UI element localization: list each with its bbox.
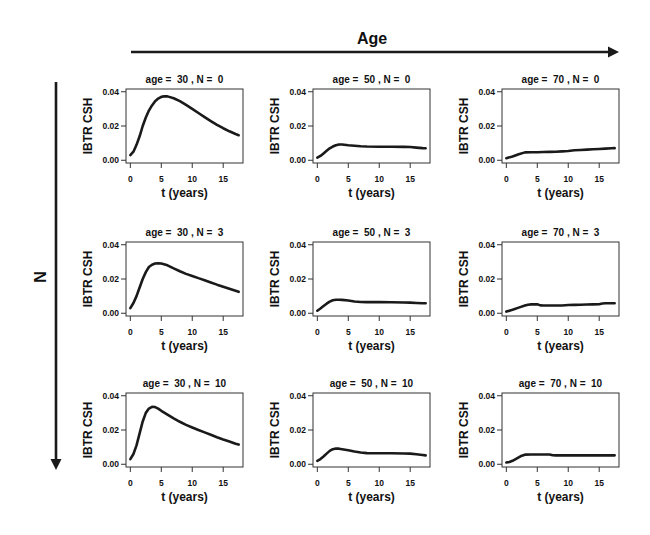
hazard-curve-line <box>506 455 614 463</box>
panel-age-30-n-10: age = 30 , N = 10 0.000.020.04 051015 t … <box>81 378 243 505</box>
x-tick-label: 15 <box>405 478 415 488</box>
hazard-curve-line <box>506 148 614 158</box>
x-tick-label: 10 <box>375 327 385 337</box>
hazard-curve-line <box>130 96 238 155</box>
hazard-curve-line <box>317 145 425 158</box>
x-axis: 051015 <box>128 467 228 488</box>
y-tick-label: 0.00 <box>102 308 119 318</box>
plot-frame <box>313 89 430 163</box>
x-axis-label: t (years) <box>537 339 584 353</box>
x-tick-label: 10 <box>564 478 574 488</box>
panel-age-70-n-0: age = 70 , N = 0 0.000.020.04 051015 t (… <box>457 74 619 201</box>
y-axis-label: IBTR CSH <box>268 98 282 155</box>
y-tick-label: 0.02 <box>289 425 306 435</box>
panel-title: age = 30 , N = 10 <box>143 378 227 389</box>
y-axis-label: IBTR CSH <box>81 251 95 308</box>
x-tick-label: 5 <box>535 478 540 488</box>
y-tick-label: 0.02 <box>102 425 119 435</box>
x-tick-label: 15 <box>218 174 228 184</box>
plot-frame <box>313 242 430 316</box>
y-tick-label: 0.02 <box>102 121 119 131</box>
panel-title: age = 50 , N = 10 <box>330 378 414 389</box>
x-tick-label: 5 <box>535 327 540 337</box>
x-axis: 051015 <box>315 467 415 488</box>
panel-title: age = 70 , N = 10 <box>519 378 603 389</box>
arrow-right-icon <box>608 47 619 58</box>
y-axis-label: IBTR CSH <box>268 402 282 459</box>
panel-age-30-n-3: age = 30 , N = 3 0.000.020.04 051015 t (… <box>81 227 243 354</box>
panel-age-50-n-3: age = 50 , N = 3 0.000.020.04 051015 t (… <box>268 227 430 354</box>
x-tick-label: 0 <box>128 478 133 488</box>
y-axis: 0.000.020.04 <box>289 391 313 470</box>
x-tick-label: 5 <box>346 327 351 337</box>
figure-canvas: Age N age = 30 , N = 0 0.000.020.04 0510… <box>0 0 650 535</box>
y-axis-label: IBTR CSH <box>81 402 95 459</box>
x-axis-label: t (years) <box>348 339 395 353</box>
y-tick-label: 0.00 <box>478 459 495 469</box>
y-tick-label: 0.00 <box>289 308 306 318</box>
arrow-down-icon <box>51 459 62 470</box>
x-tick-label: 0 <box>504 478 509 488</box>
hazard-curve-line <box>130 263 238 308</box>
y-axis-label: IBTR CSH <box>268 251 282 308</box>
x-tick-label: 15 <box>594 327 604 337</box>
y-tick-label: 0.04 <box>478 87 495 97</box>
panel-title: age = 50 , N = 0 <box>333 74 411 85</box>
x-axis-label: t (years) <box>537 490 584 504</box>
hazard-curve-line <box>506 303 614 311</box>
x-tick-label: 0 <box>504 174 509 184</box>
y-tick-label: 0.02 <box>102 274 119 284</box>
panel-title: age = 30 , N = 0 <box>146 74 224 85</box>
hazard-curve-line <box>317 300 425 311</box>
x-axis: 051015 <box>504 163 604 184</box>
x-axis: 051015 <box>128 316 228 337</box>
x-tick-label: 0 <box>315 478 320 488</box>
x-tick-label: 0 <box>315 327 320 337</box>
panel-age-50-n-10: age = 50 , N = 10 0.000.020.04 051015 t … <box>268 378 430 505</box>
y-tick-label: 0.00 <box>478 308 495 318</box>
x-tick-label: 5 <box>535 174 540 184</box>
n-axis-arrow: N <box>32 82 62 470</box>
y-tick-label: 0.00 <box>102 459 119 469</box>
x-tick-label: 5 <box>159 174 164 184</box>
x-tick-label: 0 <box>315 174 320 184</box>
age-axis-arrow: Age <box>131 30 619 58</box>
x-axis: 051015 <box>504 316 604 337</box>
x-tick-label: 10 <box>564 327 574 337</box>
x-axis: 051015 <box>315 163 415 184</box>
y-axis-label: IBTR CSH <box>81 98 95 155</box>
y-tick-label: 0.02 <box>478 121 495 131</box>
x-tick-label: 15 <box>594 478 604 488</box>
y-tick-label: 0.04 <box>478 391 495 401</box>
x-axis: 051015 <box>504 467 604 488</box>
n-axis-label: N <box>32 271 49 283</box>
x-tick-label: 10 <box>564 174 574 184</box>
panel-age-70-n-10: age = 70 , N = 10 0.000.020.04 051015 t … <box>457 378 619 505</box>
y-tick-label: 0.02 <box>289 274 306 284</box>
y-tick-label: 0.04 <box>102 87 119 97</box>
y-tick-label: 0.02 <box>478 274 495 284</box>
x-axis: 051015 <box>315 316 415 337</box>
x-tick-label: 15 <box>218 478 228 488</box>
x-tick-label: 15 <box>218 327 228 337</box>
x-tick-label: 10 <box>188 174 198 184</box>
y-tick-label: 0.04 <box>102 240 119 250</box>
y-tick-label: 0.02 <box>289 121 306 131</box>
panel-age-70-n-3: age = 70 , N = 3 0.000.020.04 051015 t (… <box>457 227 619 354</box>
x-axis-label: t (years) <box>161 490 208 504</box>
x-tick-label: 10 <box>188 327 198 337</box>
y-tick-label: 0.04 <box>289 391 306 401</box>
panel-age-30-n-0: age = 30 , N = 0 0.000.020.04 051015 t (… <box>81 74 243 201</box>
x-axis-label: t (years) <box>348 490 395 504</box>
y-tick-label: 0.00 <box>289 459 306 469</box>
x-tick-label: 15 <box>594 174 604 184</box>
y-axis: 0.000.020.04 <box>478 87 502 166</box>
panel-title: age = 70 , N = 0 <box>522 74 600 85</box>
x-tick-label: 10 <box>375 174 385 184</box>
hazard-curve-line <box>317 449 425 461</box>
y-tick-label: 0.00 <box>289 155 306 165</box>
x-tick-label: 15 <box>405 174 415 184</box>
x-tick-label: 15 <box>405 327 415 337</box>
x-axis-label: t (years) <box>348 186 395 200</box>
y-axis-label: IBTR CSH <box>457 251 471 308</box>
